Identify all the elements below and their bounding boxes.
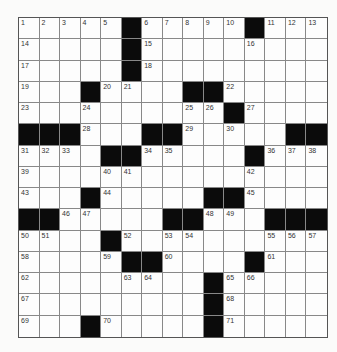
crossword-cell[interactable] bbox=[183, 188, 204, 209]
crossword-cell[interactable]: 13 bbox=[306, 18, 327, 39]
crossword-cell[interactable] bbox=[306, 188, 327, 209]
crossword-cell[interactable] bbox=[183, 61, 204, 82]
crossword-cell[interactable] bbox=[306, 294, 327, 315]
crossword-cell[interactable] bbox=[81, 231, 102, 252]
crossword-cell[interactable] bbox=[81, 252, 102, 273]
crossword-cell[interactable]: 70 bbox=[101, 316, 122, 337]
crossword-cell[interactable]: 51 bbox=[40, 231, 61, 252]
crossword-cell[interactable] bbox=[60, 167, 81, 188]
crossword-cell[interactable]: 30 bbox=[224, 124, 245, 145]
crossword-cell[interactable] bbox=[101, 61, 122, 82]
crossword-cell[interactable] bbox=[286, 103, 307, 124]
crossword-cell[interactable] bbox=[101, 294, 122, 315]
crossword-cell[interactable] bbox=[142, 82, 163, 103]
crossword-cell[interactable]: 28 bbox=[81, 124, 102, 145]
crossword-cell[interactable]: 35 bbox=[163, 146, 184, 167]
crossword-cell[interactable] bbox=[40, 39, 61, 60]
crossword-cell[interactable] bbox=[183, 316, 204, 337]
crossword-cell[interactable] bbox=[40, 273, 61, 294]
crossword-cell[interactable]: 68 bbox=[224, 294, 245, 315]
crossword-cell[interactable] bbox=[101, 273, 122, 294]
crossword-cell[interactable] bbox=[81, 61, 102, 82]
crossword-cell[interactable] bbox=[286, 39, 307, 60]
crossword-cell[interactable]: 26 bbox=[204, 103, 225, 124]
crossword-cell[interactable] bbox=[40, 316, 61, 337]
crossword-cell[interactable] bbox=[265, 273, 286, 294]
crossword-cell[interactable]: 61 bbox=[265, 252, 286, 273]
crossword-cell[interactable] bbox=[265, 61, 286, 82]
crossword-cell[interactable] bbox=[204, 39, 225, 60]
crossword-cell[interactable] bbox=[183, 39, 204, 60]
crossword-cell[interactable]: 27 bbox=[245, 103, 266, 124]
crossword-cell[interactable]: 8 bbox=[183, 18, 204, 39]
crossword-cell[interactable] bbox=[265, 103, 286, 124]
crossword-cell[interactable] bbox=[122, 103, 143, 124]
crossword-cell[interactable] bbox=[40, 167, 61, 188]
crossword-cell[interactable] bbox=[81, 39, 102, 60]
crossword-cell[interactable] bbox=[265, 124, 286, 145]
crossword-cell[interactable]: 15 bbox=[142, 39, 163, 60]
crossword-cell[interactable]: 55 bbox=[265, 231, 286, 252]
crossword-cell[interactable]: 23 bbox=[19, 103, 40, 124]
crossword-cell[interactable] bbox=[81, 294, 102, 315]
crossword-cell[interactable] bbox=[204, 231, 225, 252]
crossword-cell[interactable] bbox=[142, 188, 163, 209]
crossword-cell[interactable]: 12 bbox=[286, 18, 307, 39]
crossword-cell[interactable] bbox=[122, 188, 143, 209]
crossword-cell[interactable] bbox=[60, 231, 81, 252]
crossword-cell[interactable] bbox=[60, 39, 81, 60]
crossword-cell[interactable] bbox=[265, 39, 286, 60]
crossword-cell[interactable] bbox=[60, 103, 81, 124]
crossword-cell[interactable]: 66 bbox=[245, 273, 266, 294]
crossword-cell[interactable]: 40 bbox=[101, 167, 122, 188]
crossword-cell[interactable]: 3 bbox=[60, 18, 81, 39]
crossword-cell[interactable] bbox=[60, 273, 81, 294]
crossword-cell[interactable]: 42 bbox=[245, 167, 266, 188]
crossword-cell[interactable]: 14 bbox=[19, 39, 40, 60]
crossword-cell[interactable] bbox=[183, 273, 204, 294]
crossword-cell[interactable] bbox=[122, 294, 143, 315]
crossword-cell[interactable] bbox=[265, 188, 286, 209]
crossword-cell[interactable]: 32 bbox=[40, 146, 61, 167]
crossword-cell[interactable]: 18 bbox=[142, 61, 163, 82]
crossword-cell[interactable]: 24 bbox=[81, 103, 102, 124]
crossword-cell[interactable]: 17 bbox=[19, 61, 40, 82]
crossword-cell[interactable] bbox=[142, 294, 163, 315]
crossword-cell[interactable]: 33 bbox=[60, 146, 81, 167]
crossword-cell[interactable]: 22 bbox=[224, 82, 245, 103]
crossword-cell[interactable] bbox=[40, 82, 61, 103]
crossword-cell[interactable] bbox=[245, 294, 266, 315]
crossword-cell[interactable] bbox=[306, 82, 327, 103]
crossword-cell[interactable] bbox=[183, 252, 204, 273]
crossword-cell[interactable]: 41 bbox=[122, 167, 143, 188]
crossword-cell[interactable] bbox=[101, 103, 122, 124]
crossword-cell[interactable] bbox=[245, 231, 266, 252]
crossword-cell[interactable] bbox=[265, 294, 286, 315]
crossword-cell[interactable] bbox=[204, 124, 225, 145]
crossword-cell[interactable]: 37 bbox=[286, 146, 307, 167]
crossword-cell[interactable]: 65 bbox=[224, 273, 245, 294]
crossword-cell[interactable]: 20 bbox=[101, 82, 122, 103]
crossword-cell[interactable] bbox=[122, 124, 143, 145]
crossword-cell[interactable] bbox=[163, 294, 184, 315]
crossword-cell[interactable]: 46 bbox=[60, 209, 81, 230]
crossword-cell[interactable] bbox=[163, 273, 184, 294]
crossword-cell[interactable] bbox=[60, 316, 81, 337]
crossword-cell[interactable] bbox=[142, 167, 163, 188]
crossword-cell[interactable] bbox=[286, 188, 307, 209]
crossword-cell[interactable] bbox=[265, 82, 286, 103]
crossword-cell[interactable]: 25 bbox=[183, 103, 204, 124]
crossword-cell[interactable]: 29 bbox=[183, 124, 204, 145]
crossword-cell[interactable] bbox=[224, 231, 245, 252]
crossword-cell[interactable] bbox=[183, 294, 204, 315]
crossword-cell[interactable] bbox=[245, 82, 266, 103]
crossword-cell[interactable] bbox=[204, 252, 225, 273]
crossword-cell[interactable] bbox=[142, 316, 163, 337]
crossword-cell[interactable] bbox=[40, 252, 61, 273]
crossword-cell[interactable] bbox=[163, 39, 184, 60]
crossword-cell[interactable] bbox=[286, 294, 307, 315]
crossword-cell[interactable] bbox=[224, 146, 245, 167]
crossword-cell[interactable] bbox=[224, 252, 245, 273]
crossword-cell[interactable]: 16 bbox=[245, 39, 266, 60]
crossword-cell[interactable] bbox=[60, 294, 81, 315]
